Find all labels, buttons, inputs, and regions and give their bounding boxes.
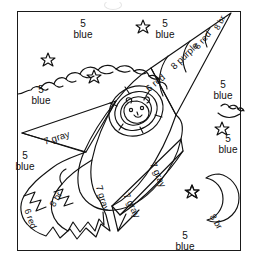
label-color: blue (168, 241, 202, 252)
cloud-large-bumps (41, 69, 158, 90)
label-cloud-left: 5 blue (24, 84, 58, 106)
label-color: blue (66, 29, 100, 40)
label-number: 5 (206, 79, 240, 90)
porthole-ring-spokes (110, 87, 162, 133)
flame-inner-edge (60, 169, 66, 184)
porthole-inner-ring (115, 91, 156, 131)
label-sky-left: 5 blue (8, 150, 42, 172)
star-upper-left (41, 53, 55, 66)
label-number: 5 (66, 18, 100, 29)
fin-lower-right (112, 139, 183, 215)
label-sky-right: 5 blue (206, 79, 240, 101)
wing-left (22, 101, 116, 152)
label-sky-top-center: 5 blue (148, 18, 182, 40)
cloud-small-right (221, 104, 244, 111)
fin-tail-point-2 (118, 214, 126, 231)
label-color: blue (24, 95, 58, 106)
label-color: blue (148, 29, 182, 40)
label-number: 5 (211, 133, 245, 144)
astronaut-eye-right (140, 106, 143, 109)
label-color: blue (8, 161, 42, 172)
label-number: 5 (24, 84, 58, 95)
astronaut-eye-left (129, 108, 132, 111)
astronaut-muzzle (137, 112, 138, 115)
label-sky-bottom: 5 blue (168, 230, 202, 252)
body-seam-right (112, 115, 176, 206)
star-near-moon-outline (185, 185, 199, 198)
cloud-small-right-base (218, 113, 240, 117)
label-sky-mid-right: 5 blue (211, 133, 245, 155)
label-number: 5 (8, 150, 42, 161)
label-color: blue (211, 144, 245, 155)
label-color: blue (206, 90, 240, 101)
label-number: 5 (168, 230, 202, 241)
label-number: 5 (148, 18, 182, 29)
worksheet-page: 5 blue 5 blue 5 blue 5 blue 5 blue 5 blu… (0, 0, 260, 269)
label-sky-top-left: 5 blue (66, 18, 100, 40)
